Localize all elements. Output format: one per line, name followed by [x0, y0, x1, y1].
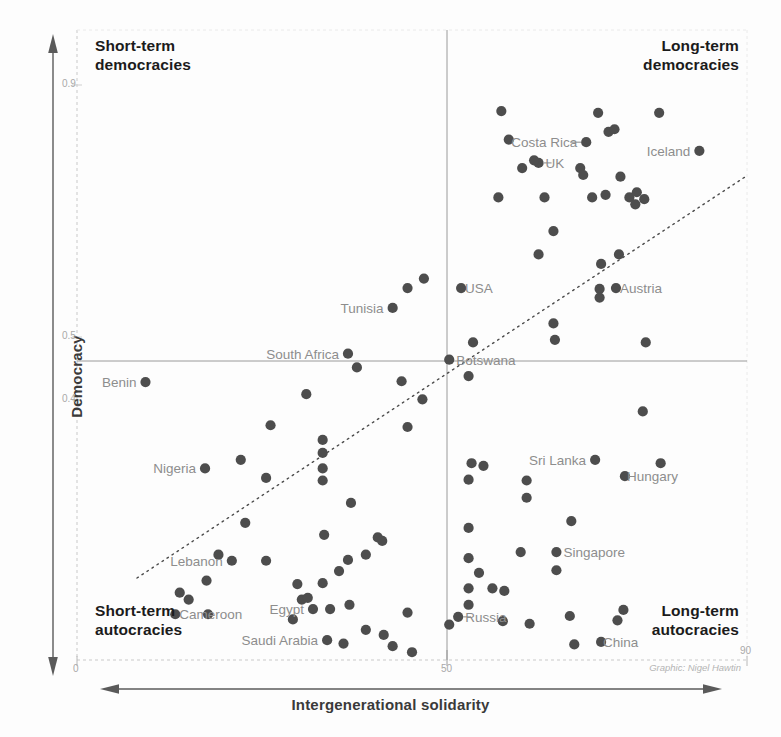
data-point	[343, 349, 353, 359]
data-point	[402, 422, 412, 432]
data-point	[343, 555, 353, 565]
data-point	[525, 619, 535, 629]
data-point	[522, 493, 532, 503]
x-tick-label-1: 50	[441, 663, 452, 674]
point-label: Saudi Arabia	[242, 633, 319, 648]
data-point	[463, 583, 473, 593]
data-point	[261, 473, 271, 483]
data-point	[529, 155, 539, 165]
y-tick-label-0: 0.9	[62, 78, 76, 89]
data-point	[463, 371, 473, 381]
data-point	[551, 565, 561, 575]
data-point	[444, 620, 454, 630]
point-label: China	[603, 634, 638, 649]
quadrant-label-top-right: Long-term democracies	[643, 36, 739, 74]
point-label: Botswana	[456, 352, 515, 367]
point-label: Tunisia	[341, 300, 384, 315]
data-point	[596, 259, 606, 269]
data-point	[590, 455, 600, 465]
data-point	[522, 475, 532, 485]
data-point	[656, 458, 666, 468]
data-point	[539, 192, 549, 202]
data-point	[566, 516, 576, 526]
data-point	[352, 362, 362, 372]
point-label: Hungary	[627, 469, 678, 484]
data-point	[581, 137, 591, 147]
data-point	[388, 303, 398, 313]
data-point	[318, 463, 328, 473]
data-point	[407, 647, 417, 657]
data-point	[453, 612, 463, 622]
data-point	[516, 547, 526, 557]
data-point	[463, 475, 473, 485]
y-tick-label-2: 0.4	[62, 393, 76, 404]
data-point	[240, 518, 250, 528]
data-point	[615, 172, 625, 182]
data-point	[361, 550, 371, 560]
data-point	[499, 586, 509, 596]
trend-line	[137, 175, 748, 578]
data-point	[641, 337, 651, 347]
data-point	[184, 594, 194, 604]
data-point	[618, 605, 628, 615]
y-tick-label-1: 0.5	[62, 330, 76, 341]
data-point	[338, 639, 348, 649]
data-point	[496, 106, 506, 116]
quadrant-label-bottom-left: Short-term autocracies	[95, 601, 182, 639]
data-point	[639, 194, 649, 204]
data-point	[612, 615, 622, 625]
point-label: USA	[465, 281, 493, 296]
data-point	[466, 458, 476, 468]
chart-canvas: Short-term democracies Long-term democra…	[0, 0, 781, 737]
data-point	[694, 146, 704, 156]
point-label: UK	[546, 155, 565, 170]
data-point	[200, 463, 210, 473]
data-point	[550, 335, 560, 345]
y-axis-arrow	[48, 34, 58, 676]
data-point	[533, 249, 543, 259]
data-point	[493, 192, 503, 202]
data-point	[548, 318, 558, 328]
x-axis-arrow	[100, 684, 722, 694]
x-tick-label-2: 90	[740, 645, 751, 656]
data-point	[609, 124, 619, 134]
x-tick-label-0: 0	[73, 663, 79, 674]
quadrant-label-top-left: Short-term democracies	[95, 36, 191, 74]
data-point	[587, 192, 597, 202]
point-label: Sri Lanka	[529, 452, 586, 467]
data-point	[417, 394, 427, 404]
data-point	[318, 578, 328, 588]
data-point	[565, 611, 575, 621]
point-label: Lebanon	[170, 553, 223, 568]
data-point	[630, 199, 640, 209]
point-label: Singapore	[563, 545, 625, 560]
data-point	[388, 641, 398, 651]
point-label: Iceland	[647, 143, 691, 158]
point-label: South Africa	[266, 346, 339, 361]
data-point	[322, 635, 332, 645]
data-point	[140, 377, 150, 387]
data-point	[632, 187, 642, 197]
data-point	[654, 108, 664, 118]
point-label: Egypt	[269, 602, 304, 617]
data-point	[463, 523, 473, 533]
data-point	[468, 337, 478, 347]
data-point	[344, 600, 354, 610]
data-point	[419, 273, 429, 283]
data-point	[600, 190, 610, 200]
data-point	[377, 536, 387, 546]
data-point	[396, 376, 406, 386]
graphic-credit: Graphic: Nigel Hawtin	[649, 662, 741, 673]
data-point	[551, 547, 561, 557]
data-point	[301, 389, 311, 399]
x-axis-title: Intergenerational solidarity	[0, 696, 781, 713]
data-point	[548, 226, 558, 236]
data-point	[318, 435, 328, 445]
data-point	[227, 556, 237, 566]
data-point	[318, 448, 328, 458]
data-point	[402, 607, 412, 617]
point-label: Nigeria	[153, 461, 196, 476]
point-label: Russia	[465, 609, 506, 624]
data-point	[236, 455, 246, 465]
data-point	[319, 530, 329, 540]
